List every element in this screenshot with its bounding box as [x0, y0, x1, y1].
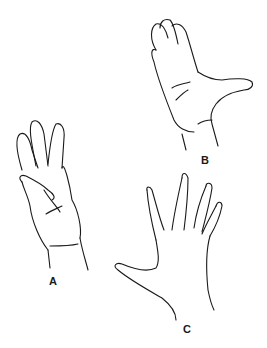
hand-a-drawing [17, 121, 88, 270]
hand-c-drawing [115, 174, 222, 321]
label-b: B [201, 154, 209, 166]
label-c: C [183, 323, 191, 335]
hand-b-drawing [152, 19, 253, 150]
label-a: A [49, 275, 57, 287]
hands-illustration [0, 0, 267, 348]
